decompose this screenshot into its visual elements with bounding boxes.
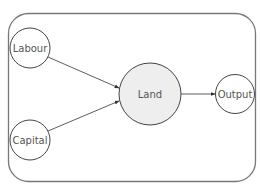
node-output: Output — [216, 75, 255, 114]
node-land-label: Land — [138, 89, 162, 100]
node-labour: Labour — [10, 28, 50, 68]
node-capital-label: Capital — [12, 135, 47, 146]
edge-capital-to-land — [48, 101, 119, 131]
node-land: Land — [119, 63, 181, 125]
edge-labour-to-land — [48, 57, 119, 88]
node-labour-label: Labour — [13, 43, 49, 54]
node-output-label: Output — [218, 89, 253, 100]
node-capital: Capital — [10, 120, 50, 160]
diagram-canvas: Labour Capital Land Output — [0, 0, 260, 190]
